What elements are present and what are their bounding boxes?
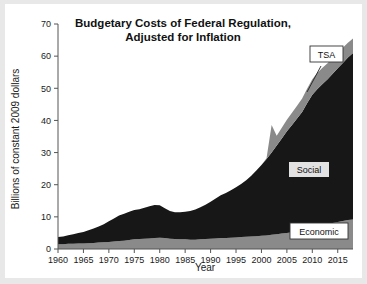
annotation-economic: Economic [290, 223, 348, 239]
x-tick-label: 1975 [124, 255, 144, 265]
x-tick-label: 2005 [277, 255, 297, 265]
y-tick-label: 10 [41, 212, 51, 222]
y-tick-label: 20 [41, 180, 51, 190]
x-tick-label: 2010 [302, 255, 322, 265]
x-tick-label: 1995 [226, 255, 246, 265]
x-tick-label: 1970 [99, 255, 119, 265]
x-tick-label: 2015 [328, 255, 348, 265]
budgetary-costs-area-chart: Budgetary Costs of Federal Regulation, A… [5, 4, 362, 278]
x-tick-label: 1980 [150, 255, 170, 265]
x-tick-label: 1960 [48, 255, 68, 265]
y-tick-label: 0 [46, 244, 51, 254]
annotation-social: Social [289, 162, 329, 177]
y-axis-title: Billions of constant 2009 dollars [10, 69, 21, 210]
economic-label-text: Economic [299, 227, 339, 237]
x-axis-title: Year [195, 262, 216, 273]
tsa-label-text: TSA [318, 50, 336, 60]
x-tick-label: 2000 [251, 255, 271, 265]
chart-figure: Budgetary Costs of Federal Regulation, A… [5, 4, 362, 278]
social-label-text: Social [297, 165, 322, 175]
chart-title-line-1: Budgetary Costs of Federal Regulation, [75, 17, 291, 29]
x-tick-label: 1985 [175, 255, 195, 265]
y-tick-label: 30 [41, 148, 51, 158]
chart-title-line-2: Adjusted for Inflation [125, 31, 241, 43]
y-tick-label: 40 [41, 116, 51, 126]
y-tick-label: 60 [41, 51, 51, 61]
y-tick-label: 50 [41, 84, 51, 94]
y-tick-label: 70 [41, 19, 51, 29]
x-tick-label: 1965 [73, 255, 93, 265]
